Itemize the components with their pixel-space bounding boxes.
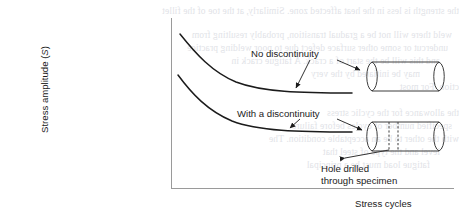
leader-with-discontinuity-to-curve [290,119,300,128]
curve-with-discontinuity [178,75,352,132]
callout-with-discontinuity: With a discontinuity [237,108,320,119]
callout-hole-drilled-line1: Hole drilled [321,163,411,175]
leader-no-discontinuity-to-curve [296,60,310,88]
holed-specimen-illustration [367,122,445,151]
plain-specimen-illustration [367,62,445,91]
fatigue-sn-curve-figure: the strength is less in the heat affecte… [0,0,459,222]
callout-no-discontinuity: No discontinuity [251,48,319,59]
figure-vector-layer [0,0,459,222]
leader-no-discontinuity-to-specimen [337,60,360,70]
curve-no-discontinuity [180,34,352,93]
leader-with-discontinuity-to-specimen [337,119,362,130]
callout-hole-drilled: Hole drilled through specimen [321,163,411,186]
callout-hole-drilled-line2: through specimen [321,175,411,187]
